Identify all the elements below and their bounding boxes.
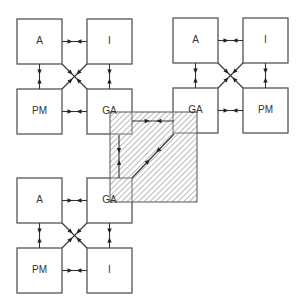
box-label: A [36,194,43,205]
diagram-canvas: AIPMGAAIGAPMAGAPMI [0,0,305,306]
link-top-right-right-vertical-arrowhead-a [263,69,267,74]
link-top-left-bottom-horizontal-arrowhead-b [77,109,82,113]
box-label: I [264,34,267,45]
link-top-right-bottom-horizontal-arrowhead-b [233,108,238,112]
link-top-left-top-horizontal-arrowhead-b [77,39,82,43]
link-bottom-left-left-vertical-arrowhead-a [37,229,41,234]
link-top-right-left-vertical-arrowhead-b [193,78,197,83]
link-top-right-left-vertical-arrowhead-a [193,69,197,74]
link-top-right-bottom-horizontal-arrowhead-a [224,108,229,112]
link-bottom-left-top-horizontal-arrowhead-a [68,198,73,202]
shared-hatched-region [110,112,197,202]
link-top-right-right-vertical-arrowhead-b [263,78,267,83]
box-label: PM [32,264,47,275]
link-top-left-right-vertical-arrowhead-a [107,70,111,75]
box-label: GA [102,105,117,116]
link-top-right-top-horizontal-arrowhead-a [224,38,229,42]
link-top-left-top-horizontal-arrowhead-a [68,39,73,43]
box-label: A [192,34,199,45]
box-label: A [36,35,43,46]
link-top-left-left-vertical-arrowhead-b [37,79,41,84]
link-bottom-left-bottom-horizontal-arrowhead-b [77,268,82,272]
link-top-left-left-vertical-arrowhead-a [37,70,41,75]
box-label: PM [32,105,47,116]
link-bottom-left-top-horizontal-arrowhead-b [77,198,82,202]
link-bottom-left-bottom-horizontal-arrowhead-a [68,268,73,272]
link-bottom-left-right-vertical-arrowhead-b [107,238,111,243]
link-bottom-left-left-vertical-arrowhead-b [37,238,41,243]
box-label: I [108,35,111,46]
box-label: PM [258,104,273,115]
link-top-left-bottom-horizontal-arrowhead-a [68,109,73,113]
link-bottom-left-right-vertical-arrowhead-a [107,229,111,234]
box-label: GA [102,194,117,205]
link-top-left-right-vertical-arrowhead-b [107,79,111,84]
link-top-right-top-horizontal-arrowhead-b [233,38,238,42]
box-label: GA [188,104,203,115]
box-label: I [108,264,111,275]
